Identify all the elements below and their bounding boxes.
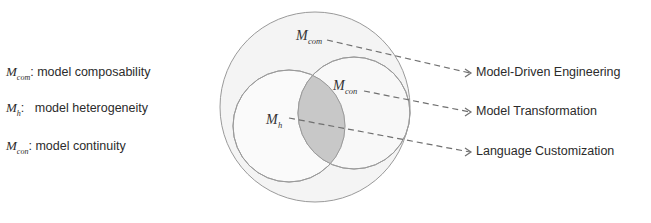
label-m-com-sub: com [308,36,322,46]
label-m-com: M [295,28,309,43]
target-mdd: Model-Driven Engineering [476,65,621,79]
label-m-con-sub: con [345,86,357,96]
arrowhead-icon [465,108,471,116]
target-model-transformation: Model Transformation [476,104,597,118]
label-m-con: M [332,78,346,93]
target-language-customization: Language Customization [476,144,614,158]
label-m-h: M [265,112,279,127]
label-m-h-sub: h [278,120,282,130]
